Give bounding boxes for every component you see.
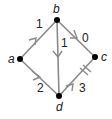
node-c <box>92 54 98 60</box>
node-b <box>54 17 60 23</box>
node-label-a: a <box>8 52 15 66</box>
node-label-c: c <box>101 50 107 64</box>
node-d <box>56 93 62 99</box>
edge-d-c <box>59 57 95 96</box>
weight-d-c: 3 <box>79 81 86 95</box>
node-label-b: b <box>53 2 60 16</box>
weight-b-c: 0 <box>82 31 89 45</box>
graph-diagram: a b c d 1 0 1 2 3 <box>0 0 112 119</box>
arrow-a-d-icon <box>32 71 40 80</box>
arrow-a-b-icon <box>29 38 36 45</box>
weight-a-b: 1 <box>36 17 43 31</box>
node-a <box>17 56 23 62</box>
node-label-d: d <box>56 100 63 114</box>
weight-b-d: 1 <box>61 36 68 50</box>
weight-a-d: 2 <box>37 81 44 95</box>
